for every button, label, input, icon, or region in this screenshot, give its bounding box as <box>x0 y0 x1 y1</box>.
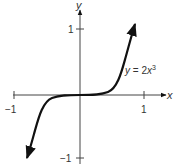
cubic-function-graph: y x −1 1 1 −1 y = 2x3 <box>0 0 176 167</box>
eq-equals: = 2 <box>130 65 147 76</box>
curve-equation-label: y = 2x3 <box>124 64 156 76</box>
cubic-curve <box>80 24 135 95</box>
cubic-curve-lower <box>27 95 80 158</box>
x-axis-label: x <box>166 89 173 101</box>
eq-exponent: 3 <box>152 64 156 71</box>
y-axis-label: y <box>75 0 83 11</box>
y-tick-label-pos: 1 <box>68 24 74 35</box>
x-tick-label-neg: −1 <box>5 104 17 115</box>
y-tick-label-neg: −1 <box>60 153 72 164</box>
x-tick-label-pos: 1 <box>141 104 147 115</box>
